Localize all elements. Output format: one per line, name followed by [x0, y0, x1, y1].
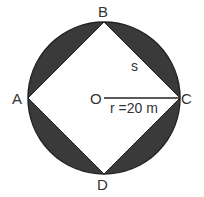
label-D: D	[97, 176, 108, 193]
label-s: s	[131, 58, 138, 74]
label-C: C	[181, 90, 192, 107]
label-radius: r =20 m	[110, 100, 158, 116]
label-B: B	[98, 3, 108, 20]
label-O: O	[90, 90, 102, 107]
label-A: A	[12, 90, 22, 107]
circle-square-diagram: B A C D O s r =20 m	[0, 0, 204, 197]
